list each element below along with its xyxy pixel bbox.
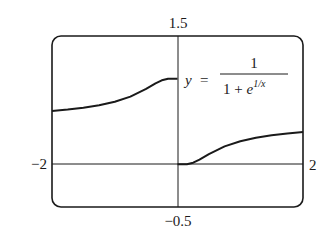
denominator-prefix: 1 +	[223, 81, 246, 97]
function-lhs: y	[183, 72, 192, 88]
denominator-exponent: 1/x	[253, 78, 266, 89]
x-max-label: 2	[309, 157, 317, 173]
x-min-label: −2	[31, 156, 47, 172]
y-min-label: −0.5	[164, 213, 191, 229]
function-label: y = 1 1 + e1/x	[183, 55, 288, 97]
curve-right-branch	[178, 132, 304, 164]
curve-left-branch	[52, 79, 178, 111]
function-equals: =	[200, 72, 208, 88]
y-max-label: 1.5	[169, 15, 188, 31]
function-denominator: 1 + e1/x	[223, 78, 266, 97]
function-numerator: 1	[250, 55, 258, 71]
chart-canvas: 1.5 −0.5 −2 2 y = 1 1 + e1/x	[0, 0, 336, 240]
